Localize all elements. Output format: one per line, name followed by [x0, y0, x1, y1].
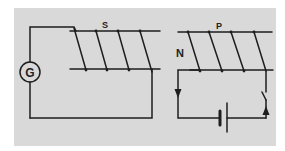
induction-diagram: G S P N [0, 0, 285, 151]
galvanometer-label: G [25, 66, 34, 80]
north-pole-label: N [176, 47, 184, 59]
diagram-background [14, 8, 276, 146]
coil-s-label: S [102, 20, 108, 30]
coil-p-label: P [216, 21, 222, 31]
